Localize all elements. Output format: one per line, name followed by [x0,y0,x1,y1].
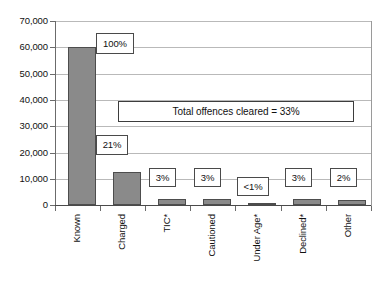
bar-charged [113,172,141,205]
y-axis-label-20000: 20,000 [20,148,48,158]
x-axis-label-cautioned: Cautioned [207,214,217,256]
y-tick-70000 [50,21,55,22]
y-tick-10000 [50,179,55,180]
data-label-tic: 3% [149,168,176,187]
bar-known [68,47,96,205]
annotation-total-offences-cleared: Total offences cleared = 33% [118,101,354,122]
data-label-charged: 21% [96,135,128,155]
x-axis-line [55,205,372,206]
data-label-known: 100% [96,33,134,54]
y-tick-20000 [50,153,55,154]
y-axis-label-40000: 40,000 [20,95,48,105]
y-axis-label-50000: 50,000 [20,69,48,79]
y-tick-30000 [50,126,55,127]
data-label-cautioned: 3% [194,168,221,187]
y-axis-label-30000: 30,000 [20,121,48,131]
plot-right-border [371,21,372,206]
x-tick-4 [235,206,236,211]
x-tick-7 [371,206,372,211]
x-axis-label-tic: TIC* [162,214,172,233]
data-label-under-age: <1% [237,177,269,196]
x-tick-3 [190,206,191,211]
gridline-30000 [55,126,372,127]
x-tick-2 [145,206,146,211]
gridline-70000 [55,21,372,22]
y-tick-40000 [50,100,55,101]
x-axis-label-other: Other [343,214,353,237]
y-axis-label-70000: 70,000 [20,16,48,26]
x-axis-label-declined: Declined* [298,214,308,254]
data-label-declined: 3% [285,168,312,187]
x-tick-6 [326,206,327,211]
y-axis-label-0: 0 [43,200,48,210]
gridline-50000 [55,74,372,75]
x-tick-0 [55,206,56,211]
y-axis-label-10000: 10,000 [20,174,48,184]
x-axis-label-known: Known [72,214,82,243]
x-axis-label-charged: Charged [117,214,127,250]
data-label-other: 2% [330,168,357,187]
y-tick-50000 [50,74,55,75]
x-axis-label-under-age: Under Age* [252,214,262,262]
y-tick-60000 [50,47,55,48]
y-axis-label-60000: 60,000 [20,42,48,52]
x-tick-1 [100,206,101,211]
bar-chart: 70,000 60,000 50,000 40,000 30,000 20,00… [0,0,386,287]
y-axis-line [55,21,56,206]
x-tick-5 [281,206,282,211]
